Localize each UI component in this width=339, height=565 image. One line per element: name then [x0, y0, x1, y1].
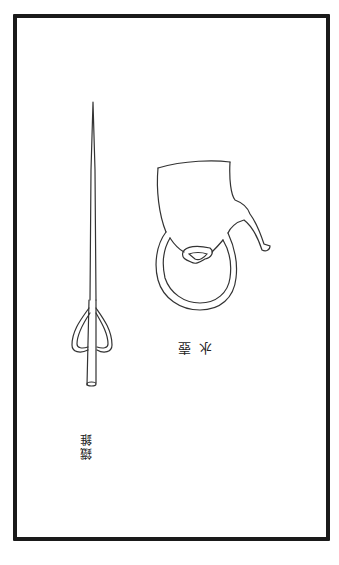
water-pot-caption: 水壺	[170, 340, 212, 359]
water-pot-illustration	[156, 161, 270, 310]
iron-awl-caption: 鐵錐	[78, 432, 95, 460]
illustrations-canvas	[0, 0, 339, 565]
iron-awl-illustration	[72, 102, 112, 386]
